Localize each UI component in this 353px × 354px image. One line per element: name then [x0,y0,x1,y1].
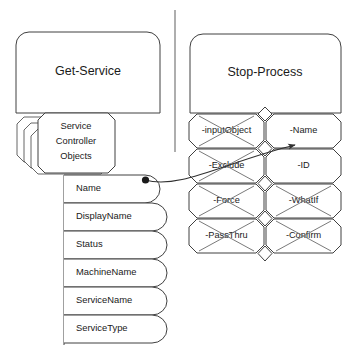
powershell-pipeline-diagram: Get-Service Service Controller Objects N… [0,0,353,354]
property-label-status: Status [76,238,103,249]
property-label-servicetype: ServiceType [76,322,128,333]
diagram-canvas: Get-Service Service Controller Objects N… [0,0,353,354]
service-object-line-1: Service [60,121,91,131]
property-label-servicename: ServiceName [76,294,132,305]
stop-process-title: Stop-Process [227,65,302,79]
param-label-name: -Name [290,125,318,135]
pipeline-connector-source-dot [142,176,149,183]
param-label-id: -ID [297,160,310,170]
property-label-name: Name [76,182,101,193]
service-object-line-2: Controller [56,136,96,146]
property-label-machinename: MachineName [76,266,136,277]
property-label-displayname: DisplayName [76,210,132,221]
service-object-line-3: Objects [60,151,92,161]
get-service-title: Get-Service [55,64,121,78]
